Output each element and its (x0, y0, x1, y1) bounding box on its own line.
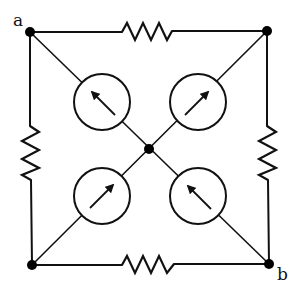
resistor-bottom-icon (122, 256, 174, 273)
left-wire-bottom (31, 180, 32, 265)
resistor-left-icon (22, 126, 39, 180)
terminal-label-b: b (277, 264, 288, 284)
current-source-upper-right (170, 74, 226, 130)
left-branch (22, 32, 39, 265)
top-branch (30, 23, 267, 40)
current-source-lower-left (74, 168, 130, 224)
current-source-upper-left (74, 74, 130, 130)
node-b (264, 259, 274, 269)
node-top-right (262, 26, 272, 36)
circuit-diagram: a b (0, 0, 297, 299)
resistor-right-icon (259, 126, 276, 180)
node-bottom-left (27, 260, 37, 270)
node-a (25, 27, 35, 37)
current-source-lower-right (170, 168, 226, 224)
bottom-branch (32, 256, 269, 273)
node-center (144, 144, 154, 154)
right-branch (259, 31, 276, 264)
terminal-label-a: a (13, 10, 23, 30)
resistor-top-icon (122, 23, 172, 40)
right-wire-bottom (268, 180, 269, 264)
